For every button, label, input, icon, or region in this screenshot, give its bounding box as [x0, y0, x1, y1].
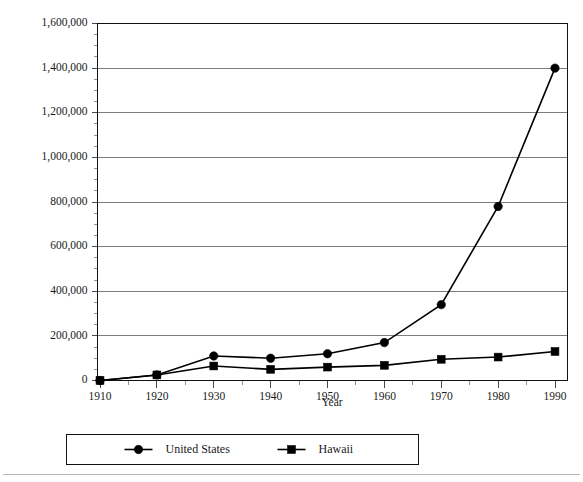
x-tick-label: 1980	[487, 390, 510, 402]
series-line	[100, 68, 555, 380]
line-chart: 0200,000400,000600,000800,0001,000,0001,…	[0, 0, 583, 482]
data-point	[437, 355, 445, 363]
y-tick-label: 800,000	[50, 195, 88, 208]
y-tick-label: 1,400,000	[42, 61, 88, 74]
y-tick-label: 600,000	[50, 239, 88, 252]
x-tick-label: 1960	[373, 390, 396, 402]
x-axis-title: Year	[321, 396, 342, 408]
x-tick-label: 1920	[145, 390, 168, 402]
y-tick-label: 400,000	[50, 284, 88, 297]
x-axis-ticks	[100, 381, 555, 388]
data-series	[96, 64, 559, 385]
data-point	[324, 363, 332, 371]
legend-label: United States	[166, 442, 231, 456]
chart-figure: 0200,000400,000600,000800,0001,000,0001,…	[0, 0, 583, 482]
x-tick-label: 1970	[430, 390, 453, 402]
gridlines	[98, 24, 568, 336]
data-point	[96, 377, 104, 385]
data-point	[494, 202, 502, 210]
y-tick-label: 1,200,000	[42, 105, 88, 118]
data-point	[266, 354, 274, 362]
data-point	[380, 338, 388, 346]
x-tick-label: 1930	[202, 390, 225, 402]
data-point	[153, 371, 161, 379]
y-tick-label: 1,000,000	[42, 150, 88, 163]
legend-marker-circle-icon	[134, 445, 142, 453]
legend-marker-square-icon	[288, 446, 296, 454]
y-tick-label: 200,000	[50, 329, 88, 342]
data-point	[323, 350, 331, 358]
data-point	[267, 365, 275, 373]
data-point	[494, 353, 502, 361]
x-tick-label: 1990	[544, 390, 567, 402]
chart-legend: United StatesHawaii	[67, 435, 419, 465]
x-tick-label: 1940	[259, 390, 282, 402]
data-point	[380, 361, 388, 369]
data-point	[210, 362, 218, 370]
y-axis-ticks	[92, 24, 98, 381]
series-united-states	[96, 64, 559, 385]
legend-border	[67, 435, 419, 465]
legend-label: Hawaii	[319, 442, 354, 456]
y-axis-tick-labels: 0200,000400,000600,000800,0001,000,0001,…	[42, 16, 88, 385]
x-tick-label: 1910	[89, 390, 112, 402]
data-point	[210, 352, 218, 360]
data-point	[437, 300, 445, 308]
data-point	[551, 348, 559, 356]
y-tick-label: 1,600,000	[42, 16, 88, 29]
data-point	[551, 64, 559, 72]
y-tick-label: 0	[82, 373, 88, 385]
